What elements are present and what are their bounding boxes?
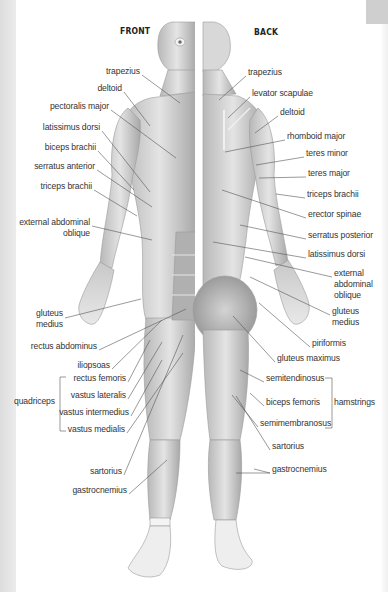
back-label-triceps-brachii: triceps brachii (307, 189, 359, 199)
back-label-biceps-femoris: biceps femoris (266, 397, 320, 407)
back-header: BACK (254, 27, 278, 37)
back-label-erector-spinae: erector spinae (308, 209, 361, 219)
back-label-gluteus-maximus: gluteus maximus (277, 353, 340, 363)
back-label-external: external (334, 268, 364, 278)
front-label-biceps-brachii: biceps brachii (45, 142, 96, 152)
back-label-hamstrings: hamstrings (334, 397, 375, 407)
front-label-sartorius: sartorius (90, 466, 122, 476)
back-label-piriformis: piriformis (312, 338, 346, 348)
front-label-deltoid: deltoid (97, 83, 122, 93)
back-label-deltoid: deltoid (280, 107, 305, 117)
front-label-iliopsoas: iliopsoas (77, 360, 110, 370)
front-label-latissimus-dorsi: latissimus dorsi (43, 122, 100, 132)
back-label-abdominal: abdominal (334, 279, 373, 289)
back-label-gluteus: gluteus (332, 306, 359, 316)
muscle-anatomy-illustration (0, 0, 388, 592)
front-label-gastrocnemius: gastrocnemius (72, 485, 127, 495)
front-label-trapezius: trapezius (106, 66, 140, 76)
back-label-teres-minor: teres minor (306, 148, 348, 158)
back-label-teres-major: teres major (308, 168, 350, 178)
back-label-semitendinosus: semitendinosus (266, 373, 324, 383)
front-label-serratus-anterior: serratus anterior (34, 161, 95, 171)
front-label-vastus-intermedius: vastus intermedius (59, 407, 129, 417)
quadriceps-bracket (60, 377, 66, 431)
back-label-latissimus-dorsi: latissimus dorsi (308, 249, 365, 259)
back-label-rhomboid-major: rhomboid major (287, 131, 345, 141)
front-label-rectus-femoris: rectus femoris (73, 373, 126, 383)
back-label-trapezius: trapezius (248, 67, 282, 77)
back-label-serratus-posterior: serratus posterior (308, 230, 373, 240)
front-label-quadriceps: quadriceps (14, 396, 55, 406)
front-label-pectoralis-major: pectoralis major (50, 101, 109, 111)
back-label-oblique: oblique (334, 290, 361, 300)
front-label-medius: medius (36, 319, 63, 329)
front-label-external-abdominal: external abdominal (19, 217, 90, 227)
back-label-sartorius: sartorius (272, 441, 304, 451)
front-header: FRONT (120, 26, 150, 36)
back-figure (193, 22, 309, 569)
front-label-rectus-abdominus: rectus abdominus (31, 341, 97, 351)
front-label-gluteus: gluteus (36, 308, 63, 318)
front-label-vastus-lateralis: vastus lateralis (71, 390, 126, 400)
front-label-triceps-brachii: triceps brachii (40, 181, 92, 191)
back-label-semimembranosus: semimembranosus (260, 418, 331, 428)
front-label-oblique: oblique (63, 228, 90, 238)
front-label-vastus-medialis: vastus medialis (68, 424, 125, 434)
back-label-levator-scapulae: levator scapulae (252, 88, 313, 98)
back-label-gastrocnemius: gastrocnemius (272, 464, 327, 474)
back-label-medius: medius (332, 317, 359, 327)
